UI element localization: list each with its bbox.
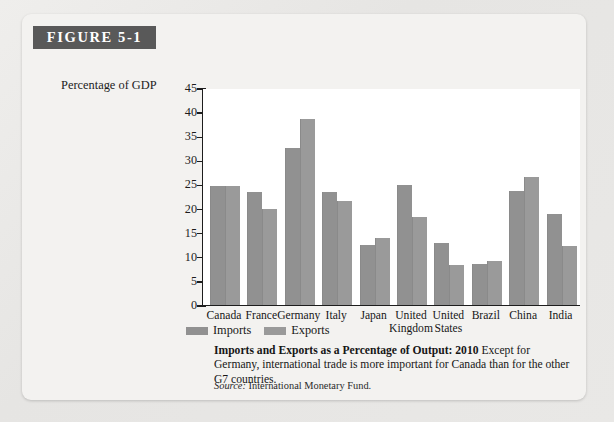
bar-exports [562, 246, 577, 305]
source-label: Source: [214, 380, 246, 391]
bar-imports [285, 148, 300, 305]
bar-group [247, 89, 277, 305]
bar-exports [337, 201, 352, 305]
plot-area [202, 89, 580, 306]
bar-imports [397, 185, 412, 305]
legend-entry-imports: Imports [186, 323, 251, 338]
bar-imports [360, 245, 375, 305]
bar-group [472, 89, 502, 305]
bar-imports [472, 264, 487, 305]
bar-group [509, 89, 539, 305]
y-tick-label: 30 [185, 153, 197, 168]
y-tick-label: 25 [185, 177, 197, 192]
bar-exports [412, 217, 427, 305]
bar-imports [247, 192, 262, 305]
y-tick-label: 40 [185, 105, 197, 120]
bar-imports [210, 186, 225, 305]
scanned-page: ECONOMIC trade FIGURE 5-1 Percentage of … [0, 0, 614, 422]
figure-card: ECONOMIC trade FIGURE 5-1 Percentage of … [22, 14, 586, 400]
figure-banner-label: FIGURE 5-1 [47, 29, 142, 46]
bar-group [434, 89, 464, 305]
legend-swatch [186, 327, 208, 335]
bar-imports [434, 243, 449, 305]
chart-legend: ImportsExports [186, 323, 330, 338]
legend-swatch [264, 327, 286, 335]
y-tick-label: 20 [185, 202, 197, 217]
y-axis-title: Percentage of GDP [61, 78, 157, 93]
plot-wrapper: 454035302520151050 CanadaFranceGermanyIt… [174, 84, 580, 306]
figure-banner: FIGURE 5-1 [33, 26, 156, 49]
category-label-india: India [536, 310, 586, 323]
y-tick-label: 15 [185, 226, 197, 241]
bar-exports [300, 119, 315, 305]
bar-exports [375, 238, 390, 305]
bar-group [322, 89, 352, 305]
bar-group [547, 89, 577, 305]
y-tick-label: 10 [185, 250, 197, 265]
bar-imports [509, 191, 524, 305]
caption-title: Imports and Exports as a Percentage of O… [214, 344, 479, 357]
bar-exports [225, 186, 240, 305]
y-tick-label: 35 [185, 129, 197, 144]
bar-group [397, 89, 427, 305]
legend-entry-exports: Exports [264, 323, 329, 338]
legend-label: Imports [213, 323, 251, 338]
bar-group [285, 89, 315, 305]
bar-group [360, 89, 390, 305]
y-tick-label: 45 [185, 81, 197, 96]
bar-exports [262, 209, 277, 305]
bar-exports [487, 261, 502, 305]
bar-imports [547, 214, 562, 305]
bar-imports [322, 192, 337, 305]
source-value: International Monetary Fund. [249, 380, 372, 391]
bar-group [210, 89, 240, 305]
bar-exports [524, 177, 539, 305]
legend-label: Exports [291, 323, 329, 338]
figure-source: Source: International Monetary Fund. [214, 380, 371, 391]
bar-exports [449, 265, 464, 305]
